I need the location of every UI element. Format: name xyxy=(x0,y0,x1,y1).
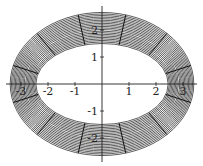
y-tick-label: -2 xyxy=(87,132,98,145)
x-tick-label: -3 xyxy=(16,85,27,98)
x-tick-label: 3 xyxy=(180,85,187,98)
parametric-plot: -3-2-1123-2-112 xyxy=(0,0,203,166)
x-tick-label: 2 xyxy=(153,85,160,98)
y-tick-label: 1 xyxy=(91,51,98,64)
y-tick-label: 2 xyxy=(91,24,98,37)
plot-canvas: -3-2-1123-2-112 xyxy=(0,0,203,166)
y-tick-label: -1 xyxy=(87,105,98,118)
x-tick-label: 1 xyxy=(126,85,133,98)
x-tick-label: -2 xyxy=(43,85,54,98)
x-tick-label: -1 xyxy=(70,85,81,98)
